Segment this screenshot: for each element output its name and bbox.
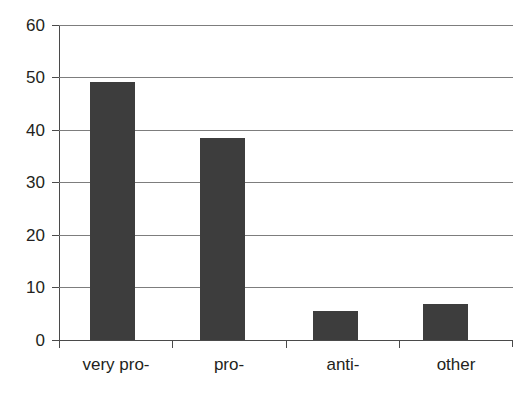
y-tick-label-20: 20 bbox=[5, 227, 45, 244]
y-tick-label-40: 40 bbox=[5, 122, 45, 139]
x-tick-label-pro: pro- bbox=[172, 355, 286, 375]
y-tick-label-60: 60 bbox=[5, 17, 45, 34]
x-tick-label-very-pro: very pro- bbox=[59, 355, 173, 375]
y-tick-label-0: 0 bbox=[5, 332, 45, 349]
y-tick-label-30: 30 bbox=[5, 174, 45, 191]
bar-chart-figure: 60 50 40 30 20 10 0 very pro- pro- anti-… bbox=[0, 0, 527, 399]
x-tick-label-anti: anti- bbox=[286, 355, 400, 375]
x-tick-mark-1 bbox=[172, 341, 173, 348]
x-tick-mark-0 bbox=[59, 341, 60, 348]
x-tick-mark-3 bbox=[399, 341, 400, 348]
y-tick-label-10: 10 bbox=[5, 279, 45, 296]
y-axis-tick-labels: 60 50 40 30 20 10 0 bbox=[0, 0, 527, 399]
x-tick-mark-2 bbox=[286, 341, 287, 348]
y-tick-label-50: 50 bbox=[5, 69, 45, 86]
x-tick-label-other: other bbox=[399, 355, 513, 375]
